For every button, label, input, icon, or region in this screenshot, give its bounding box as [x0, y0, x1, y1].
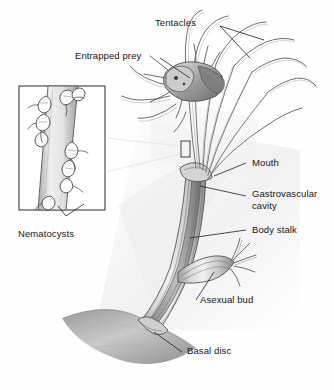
label-body-stalk: Body stalk: [252, 224, 297, 236]
label-nematocysts: Nematocysts: [18, 228, 74, 240]
label-asexual-bud: Asexual bud: [200, 294, 253, 306]
label-entrapped-prey: Entrapped prey: [75, 50, 141, 62]
hydra-anatomy-figure: Tentacles Entrapped prey Nematocysts Mou…: [0, 0, 334, 390]
nematocyst-detail-inset: [19, 86, 105, 210]
label-gastrovascular-cavity: Gastrovascular cavity: [252, 188, 322, 211]
label-basal-disc: Basal disc: [187, 345, 231, 357]
label-mouth: Mouth: [252, 157, 279, 169]
label-tentacles: Tentacles: [155, 17, 196, 29]
